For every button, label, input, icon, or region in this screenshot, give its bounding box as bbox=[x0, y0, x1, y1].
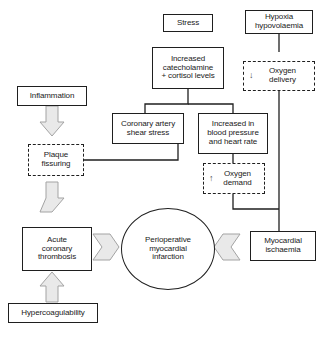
node-increased-catecholamine-label: Increased catecholamine + cortisol level… bbox=[159, 55, 216, 82]
node-oxygen-delivery-label: Oxygen delivery bbox=[267, 67, 298, 85]
node-increased-bp-heart-rate[interactable]: Increased in blood pressure and heart ra… bbox=[198, 113, 268, 154]
block-arrow-ischaemia-pmi bbox=[214, 234, 240, 260]
block-arrow-plaque-thrombosis bbox=[40, 182, 64, 212]
node-oxygen-delivery[interactable]: Oxygen delivery bbox=[243, 61, 315, 91]
increase-arrow-icon: ↑ bbox=[209, 174, 214, 183]
block-arrow-thrombosis-pmi bbox=[93, 234, 119, 260]
node-inflammation-label: Inflammation bbox=[28, 92, 77, 101]
node-myocardial-ischaemia[interactable]: Myocardial ischaemia bbox=[250, 231, 316, 261]
node-hypoxia-hypovolaemia-label: Hypoxia hypovolaemia bbox=[253, 13, 305, 31]
edge-catecholamine-bp-hr bbox=[188, 104, 233, 113]
block-arrow-inflammation-plaque bbox=[40, 106, 64, 136]
node-myocardial-ischaemia-label: Myocardial ischaemia bbox=[262, 237, 304, 255]
node-increased-catecholamine[interactable]: Increased catecholamine + cortisol level… bbox=[152, 47, 224, 89]
node-coronary-artery-shear-stress[interactable]: Coronary artery shear stress bbox=[112, 113, 184, 144]
node-stress-label: Stress bbox=[175, 19, 201, 28]
decrease-arrow-icon: ↓ bbox=[249, 71, 254, 80]
node-perioperative-myocardial-infarction[interactable]: Perioperative myocardial infarction bbox=[121, 208, 215, 290]
node-acute-coronary-thrombosis[interactable]: Acute coronary thrombosis bbox=[22, 227, 92, 271]
edge-oxygen-demand-ischaemia bbox=[233, 194, 279, 209]
node-coronary-artery-shear-stress-label: Coronary artery shear stress bbox=[119, 120, 177, 138]
node-increased-bp-heart-rate-label: Increased in blood pressure and heart ra… bbox=[205, 120, 261, 147]
node-perioperative-myocardial-infarction-label: Perioperative myocardial infarction bbox=[143, 236, 193, 263]
flowchart-diagram: .ln{stroke:#1f1f1f;stroke-width:1.3;fill… bbox=[0, 0, 334, 341]
node-hypoxia-hypovolaemia[interactable]: Hypoxia hypovolaemia bbox=[245, 10, 313, 34]
node-oxygen-demand-label: Oxygen demand bbox=[221, 170, 253, 188]
node-plaque-fissuring-label: Plaque fissuring bbox=[40, 151, 73, 169]
node-stress[interactable]: Stress bbox=[163, 14, 213, 32]
edge-shear-stress-plaque bbox=[74, 144, 178, 160]
node-plaque-fissuring[interactable]: Plaque fissuring bbox=[28, 144, 84, 176]
node-inflammation[interactable]: Inflammation bbox=[17, 86, 87, 106]
node-acute-coronary-thrombosis-label: Acute coronary thrombosis bbox=[36, 236, 78, 263]
block-arrow-hypercoagulability-thrombosis bbox=[40, 272, 64, 302]
edge-catecholamine-shear-stress bbox=[145, 89, 188, 113]
node-hypercoagulability-label: Hypercoagulability bbox=[19, 309, 87, 318]
node-hypercoagulability[interactable]: Hypercoagulability bbox=[8, 303, 98, 323]
